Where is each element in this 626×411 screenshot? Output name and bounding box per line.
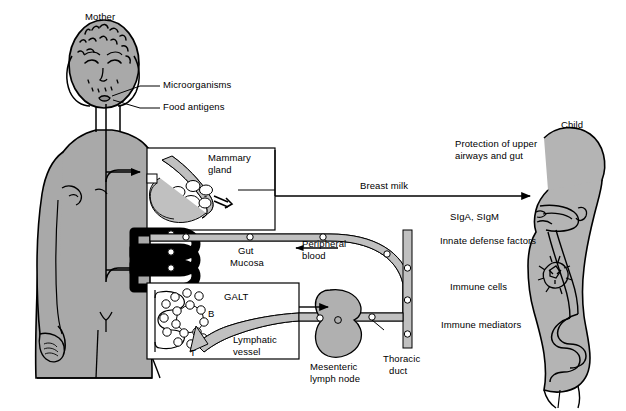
figure-canvas: Mother Child Microorganisms Food antigen… (0, 0, 626, 411)
label-galt: GALT (224, 291, 249, 303)
label-immune-cells: Immune cells (450, 281, 507, 293)
label-mammary-gland-1: Mammary (208, 152, 251, 164)
label-lymphatic-1: Lymphatic (233, 334, 277, 346)
label-mammary-gland-2: gland (208, 164, 232, 176)
label-gut-mucosa-2: Mucosa (230, 257, 264, 269)
label-siga-sigm: SIgA, SIgM (450, 211, 499, 223)
mother-figure (36, 20, 164, 378)
label-mother: Mother (85, 11, 115, 23)
label-peripheral-2: blood (302, 250, 326, 262)
label-thoracic-2: duct (389, 365, 407, 377)
label-child: Child (561, 119, 583, 131)
label-microorganisms: Microorganisms (163, 79, 231, 91)
label-mesenteric-1: Mesenteric (310, 361, 357, 373)
label-protection-1: Protection of upper (455, 138, 537, 150)
label-mesenteric-2: lymph node (310, 373, 360, 385)
label-b-cell: B (208, 308, 214, 320)
child-figure (528, 128, 605, 408)
diagram-svg (0, 0, 626, 411)
label-thoracic-1: Thoracic (383, 353, 420, 365)
label-protection-2: airways and gut (455, 150, 523, 162)
label-gut-mucosa-1: Gut (238, 245, 254, 257)
label-innate-defense: Innate defense factors (440, 235, 536, 247)
label-lymphatic-2: vessel (233, 346, 261, 358)
label-food-antigens: Food antigens (163, 101, 225, 113)
label-breast-milk: Breast milk (360, 180, 408, 192)
label-t-cell: T (190, 347, 196, 359)
galt-box (147, 283, 299, 359)
mesenteric-lymph-node (315, 290, 361, 358)
label-peripheral-1: Peripheral (302, 238, 346, 250)
label-immune-mediators: Immune mediators (441, 319, 521, 331)
